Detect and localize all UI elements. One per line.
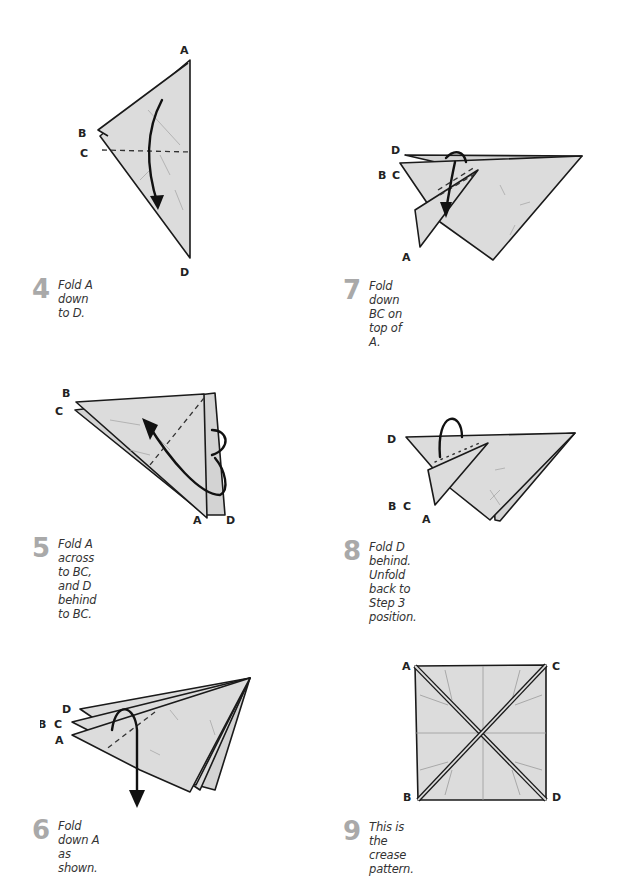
step-number: 7 <box>343 277 361 303</box>
label-b: B <box>403 791 411 804</box>
step-instruction: Fold A down to D. <box>58 276 96 320</box>
label-c: C <box>552 660 560 673</box>
label-d: D <box>391 144 400 157</box>
step-4-caption: 4 Fold A down to D. <box>32 276 96 320</box>
label-d: D <box>180 266 189 279</box>
label-d: D <box>387 433 396 446</box>
label-b: B <box>40 718 46 731</box>
step-5-caption: 5 Fold A across to BC, and D behind to B… <box>32 535 104 621</box>
label-c: C <box>80 147 88 160</box>
step-8-caption: 8 Fold D behind. Unfold back to Step 3 p… <box>343 538 424 624</box>
step-7-diagram: D B C A <box>370 140 590 265</box>
step-instruction: Fold down BC on top of A. <box>369 277 407 349</box>
step-number: 5 <box>32 535 50 561</box>
label-d: D <box>62 703 71 716</box>
label-a: A <box>55 734 64 747</box>
label-d: D <box>226 514 235 525</box>
step-instruction: Fold D behind. Unfold back to Step 3 pos… <box>369 538 424 624</box>
step-7-caption: 7 Fold down BC on top of A. <box>343 277 407 349</box>
label-b: B <box>388 500 396 513</box>
label-a: A <box>193 514 202 525</box>
label-a: A <box>402 660 411 673</box>
label-b: B <box>62 387 70 400</box>
step-instruction: This is the crease pattern. <box>369 818 421 876</box>
step-5-diagram: B C A D <box>50 350 250 525</box>
step-instruction: Fold A across to BC, and D behind to BC. <box>58 535 104 621</box>
step-6-diagram: D B C A <box>40 660 260 820</box>
step-number: 9 <box>343 818 361 844</box>
label-b: B <box>378 169 386 182</box>
step-4-diagram: A B C D <box>70 40 230 280</box>
label-a: A <box>422 513 431 526</box>
step-6-caption: 6 Fold down A as shown. <box>32 817 105 875</box>
step-number: 6 <box>32 817 50 843</box>
label-c: C <box>403 500 411 513</box>
label-c: C <box>55 405 63 418</box>
step-9-caption: 9 This is the crease pattern. <box>343 818 422 876</box>
step-number: 4 <box>32 276 50 302</box>
label-c: C <box>54 718 62 731</box>
step-8-diagram: D B C A <box>380 410 600 530</box>
step-number: 8 <box>343 538 361 564</box>
label-a: A <box>180 44 189 57</box>
step-9-diagram: A C B D <box>370 655 585 815</box>
label-d: D <box>552 791 561 804</box>
step-instruction: Fold down A as shown. <box>58 817 105 875</box>
label-b: B <box>78 127 86 140</box>
label-c: C <box>392 169 400 182</box>
label-a: A <box>402 251 411 264</box>
